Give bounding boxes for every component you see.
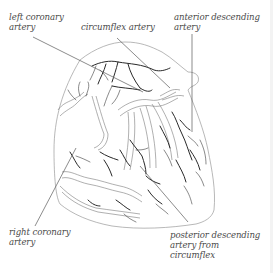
label-line: right coronary — [9, 227, 71, 237]
left-side-branches — [58, 82, 108, 150]
label-line: left coronary — [9, 12, 64, 22]
right-coronary-branches — [60, 152, 142, 222]
label-left-coronary-artery: left coronary artery — [9, 12, 64, 32]
label-right-coronary-artery: right coronary artery — [9, 227, 71, 247]
label-line: artery — [174, 22, 260, 32]
leader-left-coronary — [33, 37, 143, 92]
label-line: circumflex artery — [81, 22, 155, 32]
label-line: artery — [9, 22, 64, 32]
label-line: artery — [9, 237, 71, 247]
leader-right-coronary — [35, 148, 76, 226]
heart-diagram: left coronary artery circumflex artery a… — [0, 0, 273, 273]
left-coronary-branches — [90, 61, 170, 106]
label-posterior-descending-artery: posterior descending artery from circumf… — [170, 230, 260, 260]
label-line: artery from — [170, 240, 260, 250]
label-anterior-descending-artery: anterior descending artery — [174, 12, 260, 32]
leader-posterior-descending — [140, 166, 188, 222]
label-line: anterior descending — [174, 12, 260, 22]
page-edge-shadow — [270, 0, 273, 273]
leader-lines — [33, 34, 192, 226]
label-line: circumflex — [170, 250, 260, 260]
label-line: posterior descending — [170, 230, 260, 240]
great-vessels — [118, 89, 184, 170]
label-circumflex-artery: circumflex artery — [81, 22, 155, 32]
anterior-descending-branches — [160, 112, 206, 204]
